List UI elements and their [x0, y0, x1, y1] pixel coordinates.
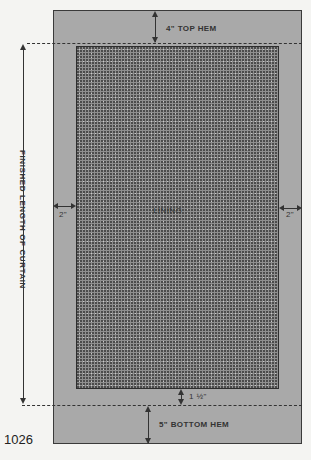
left-margin-label: 2" — [59, 210, 67, 219]
arrow-up-icon — [152, 11, 158, 17]
arrow-left-icon — [279, 205, 284, 211]
bottom-hem-label: 5" BOTTOM HEM — [159, 420, 229, 429]
arrow-up-icon — [145, 406, 151, 412]
arrow-up-icon — [20, 44, 26, 50]
figure-number: 1026 — [4, 432, 33, 447]
bottom-fold-line — [22, 405, 302, 406]
right-margin-label: 2" — [286, 210, 294, 219]
top-fold-line — [27, 43, 302, 44]
top-hem-label: 4" TOP HEM — [166, 24, 217, 33]
finished-length-label: FINISHED LENGTH OF CURTAIN — [18, 150, 27, 290]
arrow-right-icon — [297, 205, 302, 211]
arrow-up-icon — [178, 389, 184, 395]
arrow-down-icon — [20, 398, 26, 404]
lining-panel — [76, 46, 279, 389]
lining-gap-label: 1 ½" — [189, 392, 207, 401]
arrow-down-icon — [152, 37, 158, 43]
arrow-left-icon — [53, 203, 58, 209]
arrow-right-icon — [71, 203, 76, 209]
arrow-down-icon — [145, 438, 151, 444]
lining-label: LINING — [153, 206, 182, 215]
arrow-down-icon — [178, 399, 184, 405]
